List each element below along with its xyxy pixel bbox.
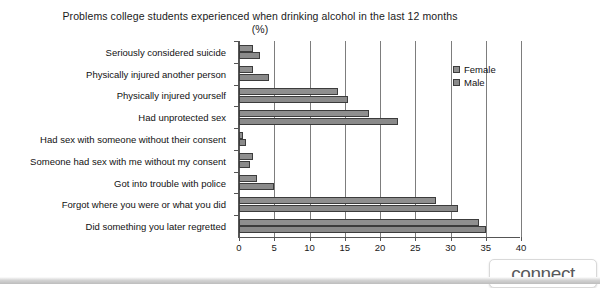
bar-female [239,197,436,204]
x-axis-tick-label: 0 [236,242,241,253]
y-axis-category-label: Did something you later regretted [86,221,226,232]
bar-female [239,66,253,73]
bar-female [239,175,257,182]
bar-female [239,45,253,52]
x-axis-tick [521,237,522,241]
bar-male [239,139,246,146]
legend-label-male: Male [464,76,485,89]
chart-legend: Female Male [449,60,521,93]
x-axis-tick-label: 40 [516,242,527,253]
bar-male [239,226,486,233]
x-axis-tick-label: 20 [375,242,386,253]
y-axis-category-label: Got into trouble with police [114,177,226,188]
x-axis-tick-label: 15 [339,242,350,253]
y-axis-category-label: Physically injured another person [86,68,226,79]
y-axis-category-label: Had unprotected sex [138,112,226,123]
x-axis-tick-label: 35 [480,242,491,253]
bar-female [239,219,479,226]
y-axis-category-label: Someone had sex with me without my conse… [30,155,226,166]
legend-swatch-female-icon [453,66,460,73]
y-axis-category-label: Had sex with someone without their conse… [40,134,226,145]
x-axis-tick-label: 5 [272,242,277,253]
y-axis-category-labels: Seriously considered suicidePhysically i… [0,41,232,237]
y-axis-category-label: Physically injured yourself [117,90,226,101]
bar-male [239,52,260,59]
x-axis-tick-label: 30 [445,242,456,253]
bar-male [239,205,458,212]
bar-male [239,96,348,103]
bar-female [239,110,369,117]
x-axis-tick-label: 25 [410,242,421,253]
bar-male [239,118,398,125]
bar-male [239,161,250,168]
legend-swatch-male-icon [453,79,460,86]
page-edge-shadow [0,277,600,284]
y-axis-category-label: Forgot where you were or what you did [62,199,226,210]
x-gridline [521,41,522,237]
bar-male [239,183,274,190]
x-axis-tick-label: 10 [304,242,315,253]
bar-female [239,132,243,139]
x-axis-line [238,237,520,238]
y-axis-category-label: Seriously considered suicide [106,46,226,57]
bar-female [239,88,338,95]
chart-title: Problems college students experienced wh… [60,10,460,36]
bar-male [239,74,269,81]
legend-item-male: Male [453,76,517,89]
bar-female [239,153,253,160]
legend-label-female: Female [464,63,496,76]
legend-item-female: Female [453,63,517,76]
